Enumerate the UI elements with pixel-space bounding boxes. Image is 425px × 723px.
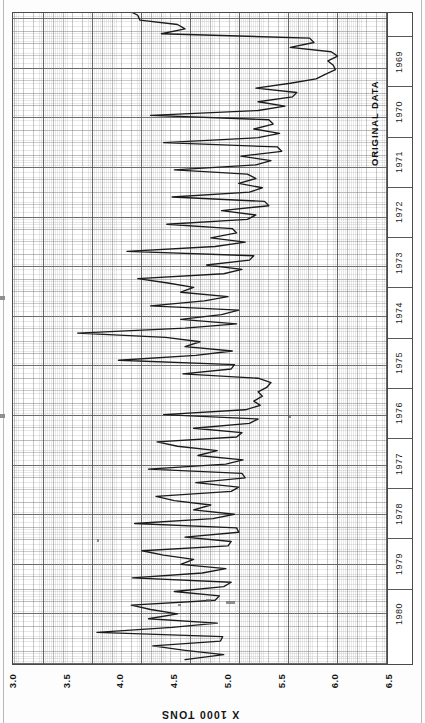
- value-tick-label-cell: 6.0: [319, 665, 349, 699]
- value-tick-label-cell: 6.5: [373, 665, 403, 699]
- year-label: 1970: [395, 101, 405, 123]
- year-label: 1980: [395, 603, 405, 625]
- scanned-chart-page: X 1000 TONS 6.56.05.55.04.54.03.53.0 198…: [0, 0, 425, 723]
- year-label-cell: 1980: [387, 589, 412, 639]
- year-label: 1973: [395, 252, 405, 274]
- value-tick-label: 6.0: [329, 674, 340, 688]
- value-tick-label: 5.0: [221, 674, 232, 688]
- year-label-cell: 1976: [387, 388, 412, 438]
- plot-area: ORIGINAL DATA: [12, 12, 388, 665]
- year-label: 1979: [395, 553, 405, 575]
- scan-speck: [289, 415, 291, 418]
- year-label: 1976: [395, 402, 405, 424]
- year-label-cell: 1975: [387, 338, 412, 388]
- value-tick-label-cell: 4.0: [104, 665, 134, 699]
- value-tick-label: 5.5: [275, 674, 286, 688]
- value-tick-label-cell: 3.5: [51, 665, 81, 699]
- chart-figure: X 1000 TONS 6.56.05.55.04.54.03.53.0 198…: [0, 0, 425, 723]
- value-tick-label: 4.5: [168, 674, 179, 688]
- year-label: 1974: [395, 302, 405, 324]
- scan-speck: [206, 599, 211, 602]
- value-tick-label: 6.5: [383, 674, 394, 688]
- chart-title: ORIGINAL DATA: [369, 80, 380, 166]
- time-axis-year-column: 1980197919781977197619751974197319721971…: [388, 12, 413, 665]
- year-label-cell: 1974: [387, 287, 412, 337]
- data-series-line: [78, 12, 338, 660]
- data-series-svg: [12, 12, 387, 664]
- value-tick-label: 4.0: [114, 674, 125, 688]
- year-label-cell: 1979: [387, 538, 412, 588]
- value-tick-label: 3.0: [7, 674, 18, 688]
- value-tick-label-cell: 5.5: [266, 665, 296, 699]
- value-axis-tick-labels: 6.56.05.55.04.54.03.53.0: [12, 665, 388, 699]
- value-axis-title: X 1000 TONS: [12, 701, 388, 721]
- year-label: 1972: [395, 201, 405, 223]
- year-label: 1971: [395, 151, 405, 173]
- year-label-cell: 1969: [387, 36, 412, 86]
- scan-speck: [97, 539, 99, 542]
- scan-speck: [178, 604, 181, 606]
- year-label-cell: 1971: [387, 137, 412, 187]
- year-label-cell: 1972: [387, 187, 412, 237]
- year-label-cell: 1973: [387, 237, 412, 287]
- year-label-cell: 1978: [387, 488, 412, 538]
- value-tick-label-cell: 4.5: [158, 665, 188, 699]
- year-label-cell: 1977: [387, 438, 412, 488]
- year-label-cell: 1970: [387, 86, 412, 136]
- scan-speck: [226, 601, 235, 604]
- year-label: 1969: [395, 51, 405, 73]
- value-tick-label: 3.5: [60, 674, 71, 688]
- year-label: 1978: [395, 503, 405, 525]
- value-tick-label-cell: 3.0: [0, 665, 27, 699]
- year-label: 1975: [395, 352, 405, 374]
- year-label: 1977: [395, 453, 405, 475]
- value-tick-label-cell: 5.0: [212, 665, 242, 699]
